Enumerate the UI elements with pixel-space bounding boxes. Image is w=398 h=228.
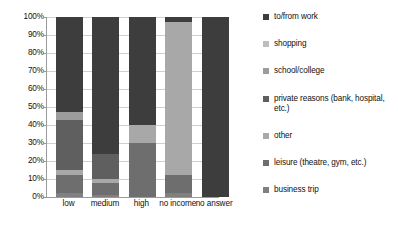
bar-segment <box>129 17 156 125</box>
y-tick-label: 20% <box>2 157 44 165</box>
bar-segment <box>129 125 156 143</box>
bar-segment <box>56 175 83 193</box>
y-tick-label: 30% <box>2 139 44 147</box>
legend-label: business trip <box>274 185 319 196</box>
y-tick-label: 100% <box>2 13 44 21</box>
legend-label: shopping <box>274 39 306 50</box>
legend-item-school-college[interactable]: school/college <box>263 66 395 77</box>
bar-no-income[interactable] <box>165 17 192 197</box>
bar-segment <box>92 154 119 179</box>
legend-swatch-icon <box>263 133 269 139</box>
bar-segment <box>56 120 83 170</box>
bar-segment <box>56 112 83 119</box>
legend-item-business-trip[interactable]: business trip <box>263 185 395 196</box>
y-tick-label: 40% <box>2 121 44 129</box>
bar-medium[interactable] <box>92 17 119 197</box>
plot-area <box>46 17 219 198</box>
bar-segment <box>165 175 192 193</box>
bar-segment <box>92 183 119 196</box>
legend-item-shopping[interactable]: shopping <box>263 39 395 50</box>
bar-segment <box>165 22 192 175</box>
legend-label: to/from work <box>274 12 318 23</box>
legend-swatch-icon <box>263 41 269 47</box>
x-axis: lowmediumhighno incomeno answer <box>46 199 226 213</box>
bar-no-answer[interactable] <box>202 17 229 197</box>
bar-segment <box>165 193 192 197</box>
legend-label: other <box>274 131 292 142</box>
bar-segment <box>92 17 119 154</box>
legend-swatch-icon <box>263 187 269 193</box>
y-tick-label: 80% <box>2 49 44 57</box>
legend-label: school/college <box>274 66 325 77</box>
legend-item-to-from-work[interactable]: to/from work <box>263 12 395 23</box>
legend-swatch-icon <box>263 96 269 102</box>
legend-label: private reasons (bank, hospital, etc.) <box>274 94 395 115</box>
bar-segment <box>129 143 156 197</box>
bar-segment <box>56 193 83 197</box>
y-tick-label: 10% <box>2 175 44 183</box>
bar-segment <box>202 17 229 197</box>
legend-swatch-icon <box>263 160 269 166</box>
legend-swatch-icon <box>263 68 269 74</box>
legend-label: leisure (theatre, gym, etc.) <box>274 158 366 169</box>
bar-high[interactable] <box>129 17 156 197</box>
legend-item-leisure-theatre-gym-etc[interactable]: leisure (theatre, gym, etc.) <box>263 158 395 169</box>
bar-segment <box>56 17 83 112</box>
legend-item-other[interactable]: other <box>263 131 395 142</box>
y-tick-label: 50% <box>2 103 44 111</box>
bar-low[interactable] <box>56 17 83 197</box>
y-axis: 0%10%20%30%40%50%60%70%80%90%100% <box>0 0 44 214</box>
y-tick-label: 60% <box>2 85 44 93</box>
y-tick-label: 70% <box>2 67 44 75</box>
legend-item-private-reasons-bank-hospital-etc[interactable]: private reasons (bank, hospital, etc.) <box>263 94 395 115</box>
x-tick-label: no answer <box>184 199 244 208</box>
legend-swatch-icon <box>263 14 269 20</box>
chart-root: 0%10%20%30%40%50%60%70%80%90%100% lowmed… <box>0 0 398 228</box>
y-tick-label: 90% <box>2 31 44 39</box>
bar-segment <box>92 195 119 197</box>
